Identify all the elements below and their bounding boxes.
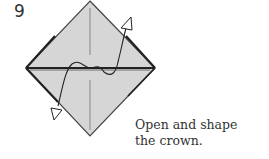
caption-line-1: Open and shape	[135, 117, 237, 133]
caption-line-2: the crown.	[135, 133, 237, 149]
instruction-caption: Open and shape the crown.	[135, 117, 237, 149]
arrowhead-up-icon	[121, 17, 132, 30]
arrowhead-down-icon	[51, 108, 62, 120]
